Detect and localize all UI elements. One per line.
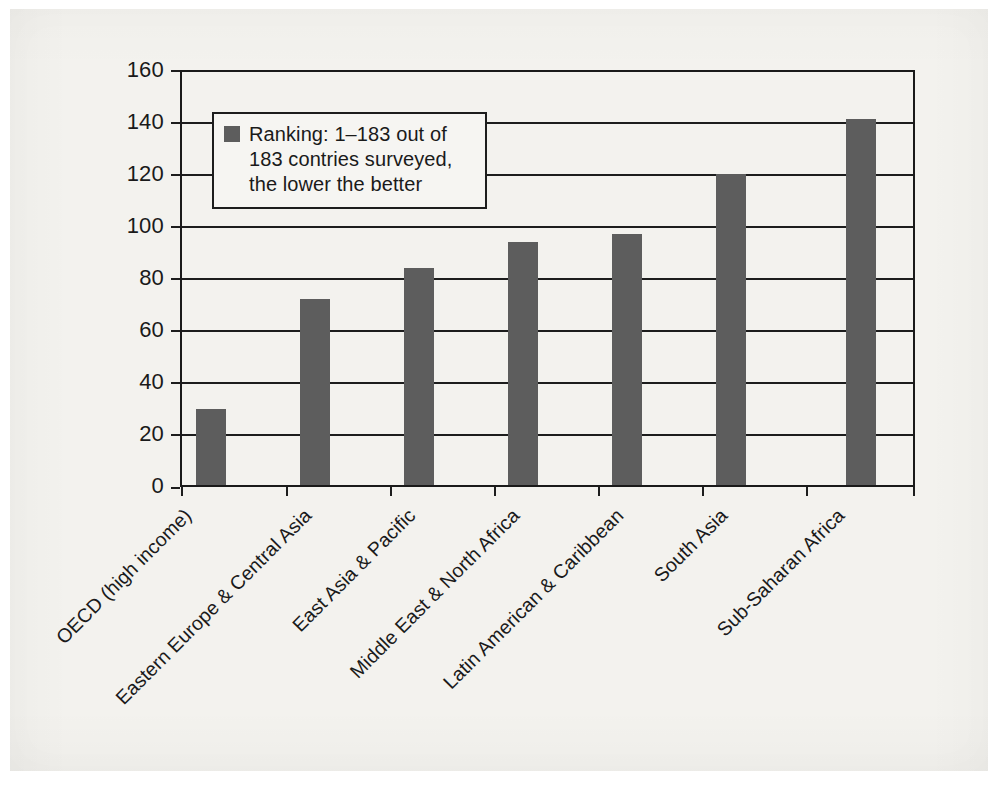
y-axis-tick-mark — [171, 278, 180, 280]
y-axis-tick-40: 40 — [104, 371, 164, 393]
x-axis-tick-mark — [494, 487, 496, 496]
legend-line-3: the lower the better — [249, 172, 452, 197]
x-axis-label-south-asia: South Asia — [377, 504, 733, 789]
legend-line-2: 183 contries surveyed, — [249, 147, 452, 172]
x-axis-tick-mark — [702, 487, 704, 496]
y-axis-tick-mark — [171, 434, 180, 436]
y-axis-tick-mark — [171, 382, 180, 384]
legend-line-1: Ranking: 1–183 out of — [249, 122, 452, 147]
y-axis-tick-100: 100 — [104, 215, 164, 237]
y-axis-tick-140: 140 — [104, 111, 164, 133]
y-axis-tick-0: 0 — [104, 475, 164, 497]
y-axis-tick-mark — [171, 174, 180, 176]
x-axis-tick-mark — [181, 487, 183, 496]
y-axis-tick-20: 20 — [104, 423, 164, 445]
legend-text: Ranking: 1–183 out of 183 contries surve… — [249, 122, 452, 197]
y-axis-tick-label: 100 — [108, 215, 164, 237]
x-axis-tick-mark — [598, 487, 600, 496]
x-axis-tick-mark — [286, 487, 288, 496]
x-axis-tick-mark — [390, 487, 392, 496]
y-axis-tick-mark — [171, 226, 180, 228]
y-axis-tick-label: 160 — [108, 59, 164, 81]
x-axis-tick-mark — [913, 487, 915, 496]
bar-chart: 160 140 120 100 80 60 40 20 0 — [0, 0, 1008, 789]
x-axis-tick-mark — [806, 487, 808, 496]
y-axis-tick-label: 0 — [108, 475, 164, 497]
y-axis-tick-label: 120 — [108, 163, 164, 185]
legend-swatch-icon — [224, 126, 240, 142]
y-axis-tick-label: 20 — [108, 423, 164, 445]
chart-legend: Ranking: 1–183 out of 183 contries surve… — [212, 112, 487, 209]
y-axis-tick-mark — [171, 122, 180, 124]
y-axis-tick-mark — [171, 487, 180, 489]
y-axis-tick-mark — [171, 330, 180, 332]
y-axis-tick-label: 80 — [108, 267, 164, 289]
y-axis-tick-label: 60 — [108, 319, 164, 341]
y-axis-tick-label: 40 — [108, 371, 164, 393]
y-axis-tick-120: 120 — [104, 163, 164, 185]
y-axis-tick-mark — [171, 70, 180, 72]
y-axis-tick-160: 160 — [104, 59, 164, 81]
y-axis-tick-60: 60 — [104, 319, 164, 341]
y-axis-tick-label: 140 — [108, 111, 164, 133]
y-axis-tick-80: 80 — [104, 267, 164, 289]
